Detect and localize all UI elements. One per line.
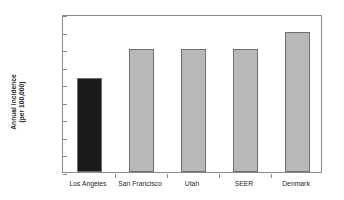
bar-denmark [285, 32, 310, 172]
y-axis-title-line-1: Annual incidence [10, 74, 18, 129]
plot-area: 0.00.20.40.60.81.01.21.41.61.8 [62, 15, 322, 173]
y-axis-tick [63, 86, 67, 87]
y-axis-tick [63, 104, 67, 105]
x-axis-label-los-angeles: Los Angeles [69, 180, 106, 187]
x-axis-label-seer: SEER [235, 180, 254, 187]
y-axis-tick [63, 34, 67, 35]
y-axis-tick [63, 69, 67, 70]
y-axis-tick [63, 156, 67, 157]
y-axis-tick [63, 174, 67, 175]
x-axis-tick [271, 174, 272, 178]
x-axis-tick [115, 174, 116, 178]
bar-san-francisco [129, 49, 154, 172]
y-axis-title: Annual incidence (per 100,000) [10, 52, 26, 152]
x-axis-label-utah: Utah [185, 180, 199, 187]
bar-los-angeles [77, 78, 102, 172]
x-axis-tick [219, 174, 220, 178]
x-axis-label-san-francisco: San Francisco [118, 180, 161, 187]
bar-chart-figure: Annual incidence (per 100,000) 0.00.20.4… [0, 0, 344, 200]
bar-utah [181, 49, 206, 172]
y-axis-tick [63, 121, 67, 122]
bar-seer [233, 49, 258, 172]
y-axis-tick [63, 16, 67, 17]
y-axis-title-line-2: (per 100,000) [18, 74, 26, 129]
x-axis-label-denmark: Denmark [282, 180, 310, 187]
x-axis-tick [167, 174, 168, 178]
y-axis-tick [63, 51, 67, 52]
y-axis-tick [63, 139, 67, 140]
